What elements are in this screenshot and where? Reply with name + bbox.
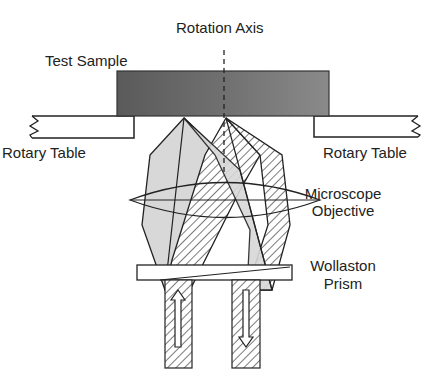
test-sample-label: Test Sample xyxy=(45,53,128,69)
rotary-table-left xyxy=(30,116,134,138)
objective-label-line1: Microscope xyxy=(298,186,388,202)
rotary-table-right xyxy=(314,116,420,137)
prism-label-line1: Wollaston xyxy=(298,258,388,274)
wollaston-prism xyxy=(137,265,292,280)
rotation-axis-label: Rotation Axis xyxy=(176,20,264,36)
rotary-table-left-label: Rotary Table xyxy=(2,145,86,161)
test-sample-block xyxy=(117,71,329,116)
rotary-table-right-label: Rotary Table xyxy=(323,145,407,161)
beam-paths xyxy=(142,118,290,290)
objective-label-line2: Objective xyxy=(298,203,388,219)
prism-label-line2: Prism xyxy=(298,276,388,292)
